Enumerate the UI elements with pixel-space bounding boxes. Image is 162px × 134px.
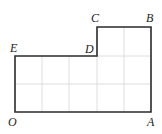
vertex-label-C: C xyxy=(91,11,100,25)
vertex-label-E: E xyxy=(9,41,18,55)
polygon-outline xyxy=(15,27,151,112)
vertex-label-O: O xyxy=(8,115,17,129)
polygon-diagram: O A B C D E xyxy=(0,0,162,134)
vertex-label-A: A xyxy=(146,115,155,129)
vertex-label-B: B xyxy=(146,11,154,25)
vertex-label-D: D xyxy=(84,42,94,56)
grid-lines xyxy=(15,27,151,112)
